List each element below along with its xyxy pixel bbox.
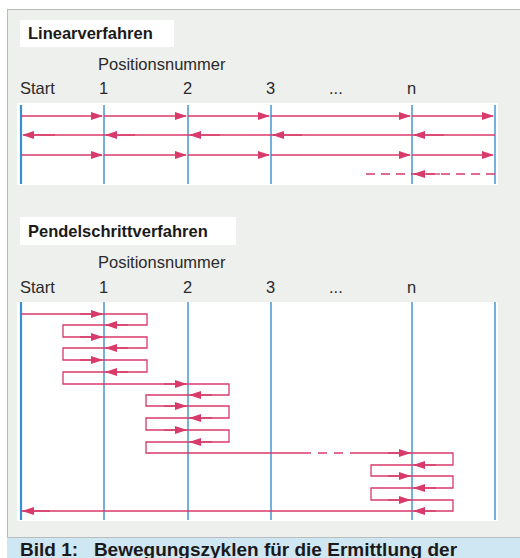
- pendulum-diagram: [0, 0, 520, 558]
- figure-caption: Bild 1: Bewegungszyklen für die Ermittlu…: [7, 537, 520, 558]
- figure-caption-text: Bild 1: Bewegungszyklen für die Ermittlu…: [20, 540, 457, 558]
